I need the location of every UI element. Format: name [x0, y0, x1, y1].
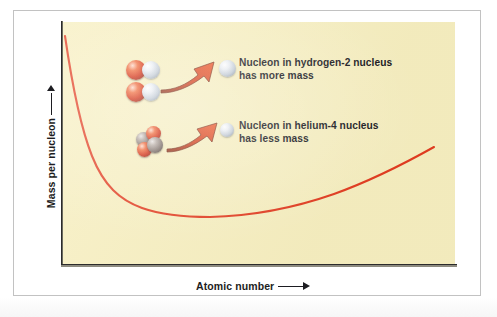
arrow-right-icon — [303, 282, 310, 290]
neutron-sphere-icon — [142, 83, 160, 101]
axis-rule — [278, 286, 304, 287]
y-axis-title-text: Mass per nucleon — [45, 118, 57, 208]
y-axis-title: Mass per nucleon — [45, 71, 57, 221]
scan-shading — [0, 297, 497, 317]
x-axis-title-text: Atomic number — [196, 280, 274, 292]
callout-label-helium: Nucleon in helium-4 nucleus has less mas… — [239, 120, 378, 145]
y-axis-line — [61, 21, 63, 267]
curved-arrow-icon — [166, 122, 224, 152]
callout-line-2: has more mass — [239, 70, 392, 83]
neutron-sphere-icon — [142, 61, 160, 79]
x-axis-line — [61, 264, 457, 267]
x-axis-title: Atomic number — [196, 280, 310, 292]
arrow-up-icon — [47, 85, 55, 91]
axis-rule — [51, 93, 52, 115]
nucleon-sphere-icon — [219, 60, 236, 77]
callout-line-2: has less mass — [239, 133, 378, 146]
neutron-sphere-icon — [147, 137, 163, 153]
plot-panel: Nucleon in hydrogen-2 nucleus has more m… — [62, 22, 455, 265]
figure-root: Nucleon in hydrogen-2 nucleus has more m… — [0, 0, 497, 317]
callout-line-1: Nucleon in helium-4 nucleus — [239, 120, 378, 133]
nucleon-sphere-icon — [220, 123, 234, 137]
callout-label-hydrogen: Nucleon in hydrogen-2 nucleus has more m… — [239, 57, 392, 82]
callout-line-1: Nucleon in hydrogen-2 nucleus — [239, 57, 392, 70]
curved-arrow-icon — [160, 60, 222, 94]
